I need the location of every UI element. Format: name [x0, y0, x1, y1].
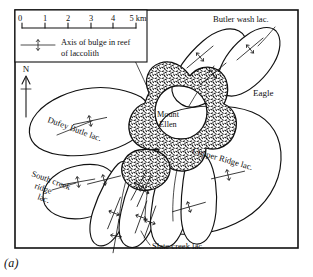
scale-tick-3: 3	[89, 14, 93, 23]
legend-text-line2: of laccolith	[61, 49, 100, 58]
scale-tick-5-km: 5 km	[130, 14, 147, 23]
label-butler-wash: Butler wash lac.	[213, 14, 269, 24]
figure-panel: 0 1 2 3 4 5 km Axis of bulge in reef of …	[0, 0, 313, 277]
label-mount-ellen-line2: Ellen	[159, 120, 176, 129]
figure-caption: (a)	[4, 256, 19, 271]
north-arrow-icon	[21, 76, 31, 117]
legend-text-line1: Axis of bulge in reef	[61, 38, 131, 47]
scale-tick-2: 2	[66, 14, 70, 23]
label-mount-ellen-line1: Mount	[157, 110, 180, 119]
scale-tick-1: 1	[43, 14, 47, 23]
label-slate-creek: Slate creek lac.	[152, 241, 204, 251]
scale-tick-0: 0	[18, 14, 22, 23]
mount-ellen-stock-south-lobe	[122, 149, 170, 190]
label-eagle: Eagle	[253, 88, 274, 98]
north-label: N	[23, 64, 30, 74]
